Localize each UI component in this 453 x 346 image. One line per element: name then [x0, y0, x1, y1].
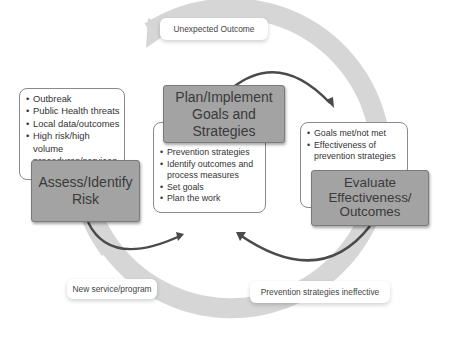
label-new-service-program-text: New service/program — [72, 284, 151, 294]
label-unexpected-outcome: Unexpected Outcome — [160, 18, 268, 40]
bullet-item: Outbreak — [25, 93, 120, 105]
bullet-item: Local data/outcomes — [25, 118, 120, 130]
evaluate-effectiveness-box: Evaluate Effectiveness/ Outcomes — [311, 170, 429, 226]
bullet-item: Identify outcomes and process measures — [159, 159, 262, 182]
bullet-item: Prevention strategies — [159, 147, 262, 159]
label-new-service-program: New service/program — [67, 279, 157, 299]
arrow-assess-to-plan-head-icon — [176, 232, 184, 241]
assess-identify-risk-box: Assess/Identify Risk — [31, 160, 140, 222]
evaluate-bullet-list: Goals met/not met Effectiveness of preve… — [306, 128, 404, 163]
bullet-item: Plan the work — [159, 193, 262, 205]
assess-bullet-list: Outbreak Public Health threats Local dat… — [25, 93, 120, 167]
bullet-item: Public Health threats — [25, 105, 120, 117]
bullet-item: Effectiveness of prevention strategies — [306, 140, 404, 163]
plan-bullet-list: Prevention strategies Identify outcomes … — [159, 147, 262, 205]
label-prevention-ineffective: Prevention strategies ineffective — [250, 281, 390, 303]
label-prevention-ineffective-text: Prevention strategies ineffective — [261, 287, 380, 297]
bullet-item: Set goals — [159, 182, 262, 194]
label-unexpected-outcome-text: Unexpected Outcome — [173, 24, 254, 34]
bullet-item: Goals met/not met — [306, 128, 404, 140]
plan-implement-box: Plan/Implement Goals and Strategies — [163, 85, 285, 143]
